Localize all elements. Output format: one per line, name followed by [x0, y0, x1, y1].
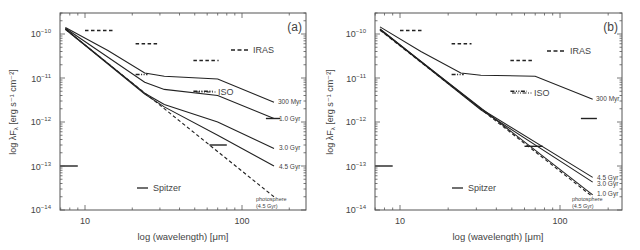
- ytick-label: 10−11: [346, 73, 366, 84]
- curve-label-photosphere-age: (4.5 Gyr): [572, 203, 594, 209]
- plot-frame-b: [375, 13, 622, 210]
- xtick-label: 10: [80, 216, 90, 226]
- curve-label-photosphere: photosphere: [256, 196, 287, 202]
- curve-label-3gyr: 3.0 Gyr: [597, 180, 619, 188]
- curve-label-photosphere: photosphere: [572, 196, 603, 202]
- curve-label-1gyr: 1.0 Gyr: [279, 115, 301, 123]
- ytick-label: 10−11: [31, 73, 51, 84]
- legend-spitzer-label: Spitzer: [468, 183, 496, 193]
- curve-label-4_5gyr: 4.5 Gyr: [279, 163, 301, 171]
- xtick-label: 100: [552, 216, 567, 226]
- ytick-label: 10−13: [31, 161, 52, 172]
- y-axis-label: log λFλ [erg s⁻¹ cm⁻²]: [325, 69, 336, 155]
- panel-label: (b): [603, 20, 618, 34]
- axis-ticks-a: [60, 13, 306, 210]
- legend-iso-label: ISO: [534, 88, 550, 98]
- ytick-label: 10−10: [31, 28, 52, 39]
- ytick-label: 10−12: [346, 116, 367, 127]
- curve-label-photosphere-age: (4.5 Gyr): [256, 203, 278, 209]
- curve-label-3gyr: 3.0 Gyr: [279, 144, 301, 152]
- series-3-0-gyr: [65, 29, 274, 149]
- plot-frame-a: [60, 13, 306, 210]
- xtick-label: 100: [234, 216, 249, 226]
- series-300-myr: [380, 27, 593, 99]
- series-300-myr: [65, 28, 274, 103]
- plot-area-b: [374, 27, 597, 197]
- chart-panel-b: 10−10 10−11 10−12 10−13 10−14 10 100 log…: [320, 0, 640, 250]
- legend-iras-label: IRAS: [253, 45, 274, 55]
- curve-label-300myr: 300 Myr: [596, 95, 620, 103]
- ytick-label: 10−12: [31, 116, 52, 127]
- panel-label: (a): [287, 20, 302, 34]
- curve-label-300myr: 300 Myr: [278, 98, 302, 106]
- axis-ticks-b: [375, 13, 622, 210]
- legend-iso-label: ISO: [218, 87, 234, 97]
- legend-spitzer-label: Spitzer: [153, 183, 181, 193]
- ytick-label: 10−14: [346, 204, 367, 215]
- legend-iras-label: IRAS: [570, 46, 591, 56]
- ytick-label: 10−10: [346, 28, 367, 39]
- y-axis-label: log λFλ [erg s⁻¹ cm⁻²]: [8, 69, 19, 155]
- x-axis-label: log (wavelength) [μm]: [452, 231, 543, 242]
- xtick-label: 10: [395, 216, 405, 226]
- ytick-label: 10−13: [346, 161, 367, 172]
- ytick-label: 10−14: [31, 204, 52, 215]
- series-1-0-gyr: [380, 30, 593, 195]
- plot-area-a: [60, 28, 281, 197]
- series-1-0-gyr: [65, 28, 274, 118]
- x-axis-label: log (wavelength) [μm]: [137, 231, 228, 242]
- series-3-0-gyr: [380, 29, 593, 182]
- chart-panel-a: 10−10 10−11 10−12 10−13 10−14 10 100 log…: [0, 0, 320, 250]
